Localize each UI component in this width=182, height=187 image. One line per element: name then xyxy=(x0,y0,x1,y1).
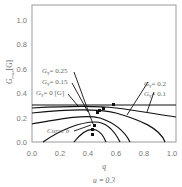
ann-gy-0.2: GY= 0.2 xyxy=(144,80,167,89)
y-tick-5: 1.0 xyxy=(17,16,27,25)
y-tick-3: 0.6 xyxy=(17,65,27,74)
y-tick-1: 0.2 xyxy=(17,114,27,123)
marker xyxy=(112,103,115,106)
ann-gy-0.15: GY= 0.15 xyxy=(42,78,68,87)
chart-subtitle: u = 0.3 xyxy=(93,176,115,185)
annotations-left: GY= 0.25 GY= 0.15 GY= 0 [G] Curve b xyxy=(36,67,70,135)
marker xyxy=(98,109,101,112)
y-tick-4: 0.8 xyxy=(17,40,27,49)
y-axis-label: Gmax[G] xyxy=(5,60,15,84)
marker xyxy=(91,133,94,136)
x-axis-label: q xyxy=(102,162,106,171)
curve-gy-0.25 xyxy=(74,130,106,143)
y-axis-ticks: 0.0 0.2 0.4 0.6 0.8 1.0 xyxy=(17,16,27,147)
ann-gy-0: GY= 0 [G] xyxy=(36,89,64,98)
x-axis-ticks: 0.0 0.2 0.4 0.6 0.8 1.0 xyxy=(27,149,177,158)
x-tick-5: 1.0 xyxy=(167,149,177,158)
x-tick-2: 0.4 xyxy=(83,149,93,158)
ann-curve-b: Curve b xyxy=(47,127,70,135)
y-tick-2: 0.4 xyxy=(17,89,27,98)
marker xyxy=(93,124,96,127)
marker xyxy=(102,107,105,110)
chart: 0.0 0.2 0.4 0.6 0.8 1.0 0.0 0.2 0.4 0.6 … xyxy=(0,0,182,187)
marker xyxy=(91,128,94,131)
ann-gy-0.25: GY= 0.25 xyxy=(42,67,68,76)
ann-gy-0.1: GY= 0.1 xyxy=(144,90,167,99)
x-tick-0: 0.0 xyxy=(27,149,37,158)
x-tick-3: 0.6 xyxy=(111,149,121,158)
y-tick-0: 0.0 xyxy=(17,138,27,147)
x-tick-4: 0.8 xyxy=(139,149,149,158)
svg-text:Gmax[G]: Gmax[G] xyxy=(5,60,15,84)
curves xyxy=(32,105,176,142)
x-tick-1: 0.2 xyxy=(55,149,65,158)
curve-gy-0.1 xyxy=(32,110,165,142)
